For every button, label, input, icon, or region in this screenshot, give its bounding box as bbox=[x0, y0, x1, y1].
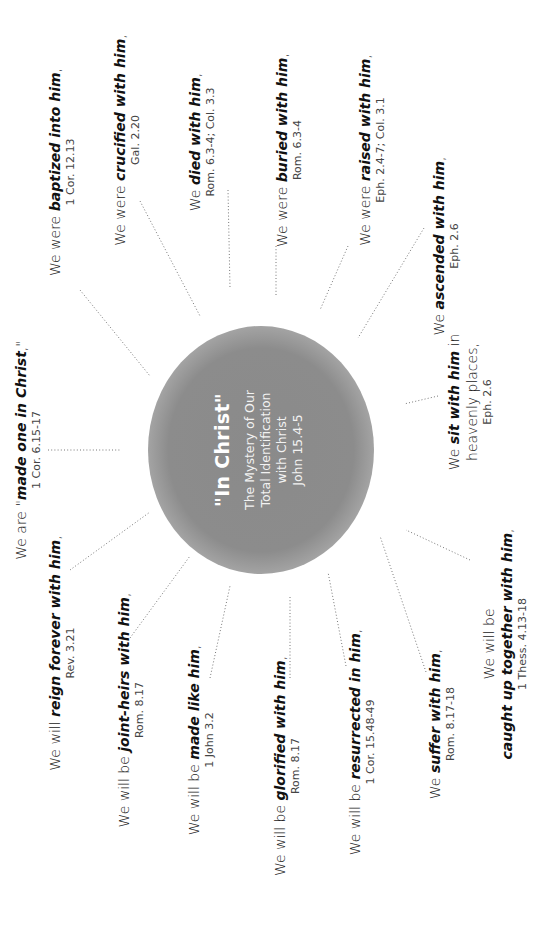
center-subtitle-reference: John 15.4-5 bbox=[290, 390, 306, 510]
scripture-reference: Eph. 2.6 bbox=[481, 334, 494, 471]
connector-caught-up bbox=[406, 530, 470, 560]
label-sit-line2: heavenly places, bbox=[463, 334, 481, 471]
label-joint-heirs: We will be joint-heirs with him, Rom. 8.… bbox=[115, 593, 146, 828]
scripture-reference: Rom. 6.3-4 bbox=[291, 53, 304, 247]
scripture-reference: Gal. 2.20 bbox=[129, 34, 142, 245]
connector-raised bbox=[320, 246, 348, 310]
label-buried: We were buried with him, Rom. 6.3-4 bbox=[273, 53, 304, 247]
label-ascended: We ascended with him, Eph. 2.6 bbox=[430, 156, 461, 335]
scripture-reference: Rom. 6.3-4; Col. 3.3 bbox=[204, 73, 217, 211]
in-christ-diagram: "In Christ" The Mystery of Our Total Ide… bbox=[0, 0, 554, 936]
connector-baptized bbox=[80, 290, 150, 376]
center-subtitle-line: Total Identification bbox=[258, 390, 274, 510]
connector-crucified bbox=[140, 201, 200, 316]
connector-suffer bbox=[380, 536, 426, 672]
label-glorified: We will be glorified with him, Rom. 8.17 bbox=[271, 656, 302, 876]
label-raised: We were raised with him, Eph. 2.4-7; Col… bbox=[356, 54, 387, 246]
label-died: We died with him, Rom. 6.3-4; Col. 3.3 bbox=[186, 73, 217, 211]
scripture-reference: Rev. 3.21 bbox=[64, 535, 77, 770]
center-subtitle: The Mystery of Our Total Identification … bbox=[242, 390, 306, 510]
label-caught-up: We will be caught up together with him, … bbox=[480, 529, 529, 760]
center-text: "In Christ" The Mystery of Our Total Ide… bbox=[148, 326, 374, 574]
center-subtitle-line: The Mystery of Our bbox=[242, 390, 258, 510]
connector-died bbox=[228, 190, 230, 288]
label-baptized: We were baptized into him, 1 Cor. 12.13 bbox=[46, 68, 77, 276]
label-made-like: We will be made like him, 1 John 3.2 bbox=[185, 645, 216, 836]
label-reign: We will reign forever with him, Rev. 3.2… bbox=[46, 535, 77, 770]
center-title: "In Christ" bbox=[211, 393, 233, 507]
scripture-reference: Eph. 2.4-7; Col. 3.1 bbox=[374, 54, 387, 246]
scripture-reference: 1 John 3.2 bbox=[203, 645, 216, 836]
scripture-reference: Rom. 8.17 bbox=[133, 593, 146, 828]
scripture-reference: 1 Cor. 12.13 bbox=[64, 68, 77, 276]
scripture-reference: Rom. 8.17-18 bbox=[444, 649, 457, 799]
scripture-reference: 1 Cor. 6.15-17 bbox=[30, 340, 43, 560]
center-subtitle-line: with Christ bbox=[274, 390, 290, 510]
label-suffer: We suffer with him, Rom. 8.17-18 bbox=[426, 649, 457, 799]
scripture-reference: 1 Cor. 15.48-49 bbox=[364, 629, 377, 855]
scripture-reference: Eph. 2.6 bbox=[448, 156, 461, 335]
label-made-one: We are "made one in Christ," 1 Cor. 6.15… bbox=[12, 340, 43, 560]
label-resurrected: We will be resurrected in him, 1 Cor. 15… bbox=[346, 629, 377, 855]
label-caught-up-line0: We will be bbox=[480, 529, 498, 760]
label-sit: We sit with him in heavenly places, Eph.… bbox=[445, 334, 494, 471]
scripture-reference: 1 Thess. 4.13-18 bbox=[516, 529, 529, 760]
scripture-reference: Rom. 8.17 bbox=[289, 656, 302, 876]
connector-sit bbox=[404, 396, 438, 404]
connector-reign bbox=[70, 512, 150, 570]
connector-resurrected bbox=[328, 572, 346, 666]
label-crucified: We were crucified with him, Gal. 2.20 bbox=[111, 34, 142, 245]
